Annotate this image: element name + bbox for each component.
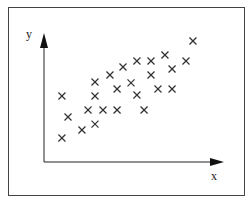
data-point (91, 92, 98, 99)
data-point (91, 78, 98, 85)
data-point (106, 72, 113, 79)
data-point (148, 57, 155, 64)
data-point (114, 107, 121, 114)
y-axis-label: y (26, 27, 32, 41)
data-point (182, 57, 189, 64)
data-point (133, 92, 140, 99)
data-points (58, 37, 196, 141)
data-point (169, 66, 176, 73)
data-point (148, 72, 155, 79)
data-point (114, 86, 121, 93)
data-point (169, 86, 176, 93)
scatter-chart: y x (0, 0, 252, 206)
data-point (65, 113, 72, 120)
data-point (58, 92, 65, 99)
y-axis-arrow-icon (40, 33, 48, 48)
data-point (58, 134, 65, 141)
data-point (119, 63, 126, 70)
data-point (133, 57, 140, 64)
data-point (161, 52, 168, 59)
data-point (128, 79, 135, 86)
data-point (141, 107, 148, 114)
data-point (91, 121, 98, 128)
data-point (85, 107, 92, 114)
data-point (99, 107, 106, 114)
data-point (78, 127, 85, 134)
x-axis (44, 158, 224, 166)
x-axis-arrow-icon (210, 158, 224, 166)
x-axis-label: x (211, 169, 217, 183)
y-axis (40, 33, 48, 162)
data-point (154, 86, 161, 93)
data-point (189, 37, 196, 44)
